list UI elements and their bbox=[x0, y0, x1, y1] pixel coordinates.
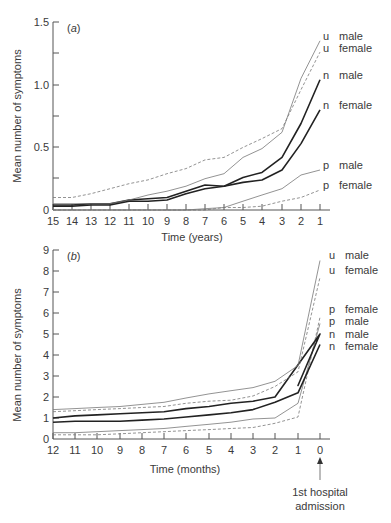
panel-label-b: (b) bbox=[67, 250, 80, 262]
arrowhead-icon bbox=[317, 457, 323, 464]
y-axis-label-a: Mean number of symptoms bbox=[11, 49, 23, 183]
svg-text:1.5: 1.5 bbox=[34, 16, 49, 28]
svg-text:5: 5 bbox=[206, 444, 212, 456]
y-axis-label-b: Mean number of symptoms bbox=[11, 288, 23, 422]
svg-text:u: u bbox=[329, 249, 335, 261]
svg-text:female: female bbox=[339, 179, 372, 191]
svg-text:11: 11 bbox=[69, 444, 80, 456]
legend-item-b-p-male: pmale bbox=[329, 315, 369, 327]
svg-text:2: 2 bbox=[43, 391, 49, 403]
line-a-u-male bbox=[53, 41, 320, 204]
legend-item-b-u-female: ufemale bbox=[329, 264, 378, 276]
annotation-line-2: admission bbox=[295, 500, 345, 512]
annotation-line-1: 1st hospital bbox=[292, 486, 348, 498]
svg-text:p: p bbox=[329, 315, 335, 327]
svg-text:u: u bbox=[329, 264, 335, 276]
svg-text:11: 11 bbox=[123, 215, 134, 227]
svg-text:8: 8 bbox=[139, 444, 145, 456]
svg-text:1: 1 bbox=[43, 412, 49, 424]
legend-item-b-u-male: umale bbox=[329, 249, 369, 261]
svg-text:4: 4 bbox=[228, 444, 234, 456]
svg-text:u: u bbox=[323, 30, 329, 42]
svg-text:9: 9 bbox=[43, 244, 49, 256]
line-b-u-male bbox=[53, 261, 320, 410]
svg-text:male: male bbox=[345, 328, 369, 340]
svg-text:4: 4 bbox=[259, 215, 265, 227]
y-tick-labels-a: 0 0.5 1.0 1.5 bbox=[34, 16, 49, 216]
legend-item-b-n-female: nfemale bbox=[329, 340, 378, 352]
svg-text:3: 3 bbox=[43, 370, 49, 382]
legend-item-a-p-male: pmale bbox=[323, 159, 363, 171]
svg-text:6: 6 bbox=[221, 215, 227, 227]
svg-text:3: 3 bbox=[250, 444, 256, 456]
admission-annotation: 1st hospital admission bbox=[292, 457, 348, 512]
svg-text:u: u bbox=[323, 42, 329, 54]
svg-text:female: female bbox=[345, 340, 378, 352]
svg-text:2: 2 bbox=[298, 215, 304, 227]
y-tick-labels-b: 0 1 2 3 4 5 6 7 8 9 bbox=[43, 244, 49, 445]
legend-item-a-p-female: pfemale bbox=[323, 179, 372, 191]
svg-text:13: 13 bbox=[85, 215, 97, 227]
svg-text:15: 15 bbox=[47, 215, 59, 227]
legend-item-a-n-male: nmale bbox=[323, 69, 363, 81]
svg-text:female: female bbox=[345, 303, 378, 315]
svg-text:n: n bbox=[329, 328, 335, 340]
svg-text:1.0: 1.0 bbox=[34, 79, 49, 91]
svg-text:p: p bbox=[329, 303, 335, 315]
x-tick-labels-b: 12 11 10 9 8 7 6 5 4 3 2 1 0 bbox=[47, 444, 323, 456]
svg-text:n: n bbox=[323, 69, 329, 81]
svg-text:n: n bbox=[329, 340, 335, 352]
svg-text:male: male bbox=[339, 159, 363, 171]
y-ticks-a bbox=[53, 22, 59, 178]
svg-text:2: 2 bbox=[272, 444, 278, 456]
svg-text:female: female bbox=[339, 42, 372, 54]
y-ticks-b bbox=[53, 250, 59, 418]
svg-text:6: 6 bbox=[183, 444, 189, 456]
legend-item-a-u-male: umale bbox=[323, 30, 363, 42]
legend-a: umale ufemale nmale nfemale pmale pfemal… bbox=[323, 30, 372, 191]
svg-text:8: 8 bbox=[183, 215, 189, 227]
svg-text:male: male bbox=[339, 69, 363, 81]
figure: 0 0.5 1.0 1.5 15 14 13 12 bbox=[0, 0, 391, 523]
svg-text:9: 9 bbox=[164, 215, 170, 227]
svg-text:0: 0 bbox=[317, 444, 323, 456]
panel-b: 0 1 2 3 4 5 6 7 8 9 12 bbox=[11, 244, 378, 512]
x-ticks-b bbox=[53, 433, 320, 439]
svg-text:5: 5 bbox=[240, 215, 246, 227]
svg-text:1: 1 bbox=[317, 215, 323, 227]
svg-text:1: 1 bbox=[295, 444, 301, 456]
x-axis-label-a: Time (years) bbox=[161, 231, 222, 243]
svg-text:6: 6 bbox=[43, 307, 49, 319]
svg-text:7: 7 bbox=[202, 215, 208, 227]
svg-text:male: male bbox=[345, 315, 369, 327]
svg-text:female: female bbox=[345, 264, 378, 276]
svg-text:8: 8 bbox=[43, 265, 49, 277]
series-b bbox=[53, 261, 320, 435]
legend-item-a-u-female: ufemale bbox=[323, 42, 372, 54]
panel-a: 0 0.5 1.0 1.5 15 14 13 12 bbox=[11, 16, 372, 243]
line-a-u-female bbox=[53, 52, 320, 197]
svg-text:p: p bbox=[323, 159, 329, 171]
svg-text:male: male bbox=[339, 30, 363, 42]
panel-label-a: (a) bbox=[67, 22, 80, 34]
svg-text:7: 7 bbox=[161, 444, 167, 456]
x-tick-labels-a: 15 14 13 12 11 10 9 8 7 6 5 4 3 2 1 bbox=[47, 215, 323, 227]
series-a bbox=[53, 41, 320, 210]
svg-text:10: 10 bbox=[142, 215, 154, 227]
svg-text:5: 5 bbox=[43, 328, 49, 340]
line-b-n-male bbox=[53, 334, 320, 418]
legend-b: umale ufemale pfemale pmale nmale nfemal… bbox=[329, 249, 378, 352]
svg-text:10: 10 bbox=[91, 444, 103, 456]
line-b-u-female bbox=[53, 277, 320, 411]
svg-text:p: p bbox=[323, 179, 329, 191]
svg-text:12: 12 bbox=[47, 444, 59, 456]
svg-text:female: female bbox=[339, 99, 372, 111]
svg-text:4: 4 bbox=[43, 349, 49, 361]
svg-text:12: 12 bbox=[104, 215, 116, 227]
svg-text:male: male bbox=[345, 249, 369, 261]
legend-item-b-n-male: nmale bbox=[329, 328, 369, 340]
svg-text:0.5: 0.5 bbox=[34, 141, 49, 153]
svg-text:14: 14 bbox=[66, 215, 78, 227]
svg-text:n: n bbox=[323, 99, 329, 111]
svg-text:9: 9 bbox=[117, 444, 123, 456]
